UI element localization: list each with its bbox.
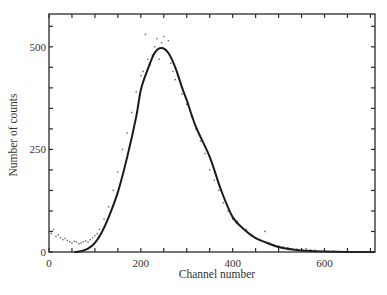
- y-tick-label: 0: [41, 246, 47, 258]
- data-point: [51, 233, 52, 234]
- data-point: [74, 241, 75, 242]
- data-point: [131, 112, 132, 113]
- data-point: [145, 34, 146, 35]
- data-point: [142, 71, 143, 72]
- x-tick-label: 600: [316, 257, 333, 269]
- data-point: [78, 243, 79, 244]
- data-point: [204, 153, 205, 154]
- data-point: [168, 40, 169, 41]
- data-point: [71, 242, 72, 243]
- data-point: [69, 241, 70, 242]
- data-point: [154, 46, 155, 47]
- data-point: [60, 237, 61, 238]
- data-point: [57, 234, 58, 235]
- y-tick-label: 250: [30, 143, 47, 155]
- data-point: [140, 75, 141, 76]
- data-point: [117, 171, 118, 172]
- y-tick-label: 500: [30, 41, 47, 53]
- data-point: [136, 91, 137, 92]
- data-point: [67, 240, 68, 241]
- data-point: [85, 240, 86, 241]
- data-point: [80, 242, 81, 243]
- data-point: [214, 179, 215, 180]
- data-point: [108, 206, 109, 207]
- data-point: [92, 237, 93, 238]
- spectrum-chart: 0200400600 0250500 Channel number Number…: [0, 0, 387, 295]
- data-point: [305, 248, 306, 249]
- x-tick-label: 0: [46, 257, 52, 269]
- data-point: [223, 202, 224, 203]
- data-point: [94, 235, 95, 236]
- data-point: [55, 236, 56, 237]
- data-point: [83, 241, 84, 242]
- data-point: [218, 190, 219, 191]
- data-point: [113, 190, 114, 191]
- data-point: [62, 239, 63, 240]
- data-point: [209, 169, 210, 170]
- y-axis-tick-labels: 0250500: [30, 41, 47, 258]
- data-point: [264, 231, 265, 232]
- data-point: [97, 233, 98, 234]
- data-point: [156, 38, 157, 39]
- plot-frame: [49, 14, 375, 252]
- x-tick-label: 200: [133, 257, 150, 269]
- data-point: [170, 63, 171, 64]
- data-point: [200, 141, 201, 142]
- data-point: [53, 229, 54, 230]
- measured-counts-scatter: [51, 34, 349, 252]
- data-point: [181, 93, 182, 94]
- fit-curve-line: [74, 48, 375, 252]
- data-point: [122, 149, 123, 150]
- data-point: [87, 241, 88, 242]
- data-point: [158, 58, 159, 59]
- data-point: [161, 42, 162, 43]
- data-point: [99, 229, 100, 230]
- y-axis-title: Number of counts: [7, 93, 19, 177]
- data-point: [175, 79, 176, 80]
- data-point: [103, 218, 104, 219]
- data-point: [172, 71, 173, 72]
- data-point: [76, 241, 77, 242]
- data-point: [64, 238, 65, 239]
- data-point: [163, 36, 164, 37]
- axis-ticks: [49, 14, 375, 252]
- x-axis-title: Channel number: [179, 268, 255, 280]
- data-point: [90, 239, 91, 240]
- data-point: [147, 58, 148, 59]
- data-point: [126, 132, 127, 133]
